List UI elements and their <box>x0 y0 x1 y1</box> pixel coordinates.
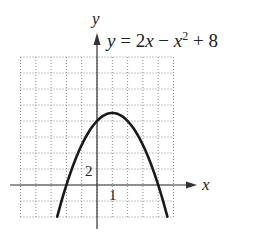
y-axis-label: y <box>90 9 100 28</box>
eq-y: y <box>105 30 116 51</box>
x-axis-arrow-icon <box>186 182 197 189</box>
eq-equals-2: = 2 <box>115 30 145 51</box>
eq-minus: − <box>154 30 174 51</box>
y-axis-arrow-icon <box>94 33 101 45</box>
parabola-graph: x y 1 2 y = 2x − x2 + 8 <box>0 0 253 234</box>
tick-label-x-1: 1 <box>109 187 117 203</box>
tick-label-y-2: 2 <box>85 163 93 179</box>
equation-label: y = 2x − x2 + 8 <box>105 29 218 51</box>
eq-plus-8: + 8 <box>188 30 218 51</box>
x-axis-label: x <box>201 175 210 194</box>
